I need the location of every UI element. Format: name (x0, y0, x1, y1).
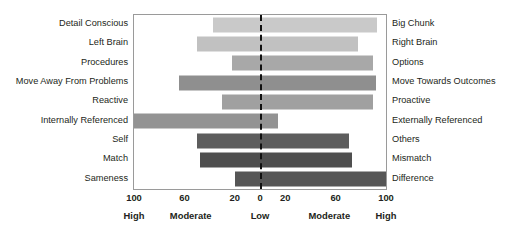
bar-move-away-from-problems (179, 75, 376, 90)
bar-procedures (232, 56, 373, 71)
zero-axis-dashed-line (260, 15, 262, 189)
left-category-labels: Detail ConsciousLeft BrainProceduresMove… (0, 14, 128, 190)
left-label-9: Sameness (85, 169, 128, 188)
x-tick-5: 20 (280, 192, 290, 203)
x-tick-6: 60 (330, 192, 340, 203)
left-label-6: Internally Referenced (41, 111, 128, 130)
x-band-3: Low (251, 210, 270, 221)
bar-left-brain (197, 36, 358, 51)
left-label-2: Left Brain (89, 33, 128, 52)
bar-internally-referenced (134, 114, 278, 129)
meta-programmes-diverging-bar-chart: Detail ConsciousLeft BrainProceduresMove… (0, 0, 520, 234)
right-label-9: Difference (392, 169, 434, 188)
right-label-2: Right Brain (392, 33, 437, 52)
left-label-8: Match (103, 149, 128, 168)
x-band-1: High (124, 210, 145, 221)
left-label-5: Reactive (92, 91, 128, 110)
x-tick-7: 100 (378, 192, 394, 203)
right-label-1: Big Chunk (392, 14, 434, 33)
left-label-7: Self (112, 130, 128, 149)
x-band-5: High (376, 210, 397, 221)
x-band-2: Moderate (170, 210, 212, 221)
bar-sameness (235, 172, 386, 187)
bar-reactive (222, 94, 373, 109)
left-label-1: Detail Conscious (59, 14, 128, 33)
right-category-labels: Big ChunkRight BrainOptionsMove Towards … (392, 14, 520, 190)
plot-area (133, 14, 387, 190)
x-band-4: Moderate (308, 210, 350, 221)
x-tick-2: 60 (179, 192, 189, 203)
left-label-4: Move Away From Problems (16, 72, 128, 91)
bar-self (197, 133, 349, 148)
x-tick-4: 0 (257, 192, 262, 203)
bar-match (200, 152, 352, 167)
right-label-7: Others (392, 130, 420, 149)
right-label-3: Options (392, 53, 424, 72)
right-label-4: Move Towards Outcomes (392, 72, 495, 91)
left-label-3: Procedures (81, 53, 128, 72)
right-label-5: Proactive (392, 91, 430, 110)
right-label-6: Externally Referenced (392, 111, 482, 130)
right-label-8: Mismatch (392, 149, 431, 168)
x-tick-3: 20 (230, 192, 240, 203)
x-tick-1: 100 (126, 192, 142, 203)
x-axis: 100602002060100HighModerateLowModerateHi… (133, 190, 387, 230)
bar-detail-conscious (213, 17, 377, 32)
